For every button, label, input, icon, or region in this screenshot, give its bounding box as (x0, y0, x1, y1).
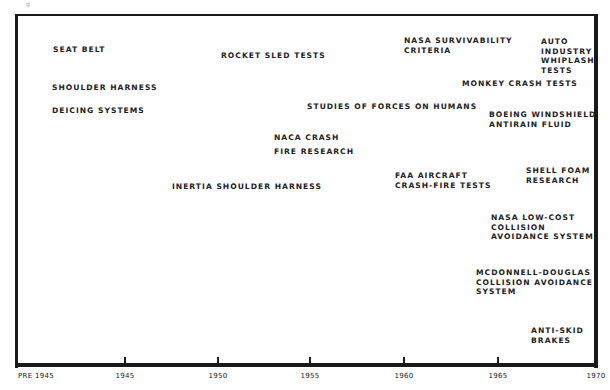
corner-mark: g (26, 0, 30, 7)
timeline-event-label: NACA CRASH (274, 133, 339, 143)
axis-tick-label: 1955 (300, 372, 319, 380)
axis-tick-label: 1950 (208, 372, 227, 380)
timeline-event-label: STUDIES OF FORCES ON HUMANS (307, 102, 477, 112)
timeline-event-label: FAA AIRCRAFT CRASH-FIRE TESTS (395, 171, 491, 190)
timeline-event-label: SHOULDER HARNESS (52, 83, 158, 93)
axis-tick-label: 1965 (488, 372, 507, 380)
axis-tick-label: 1970 (586, 372, 605, 380)
timeline-event-label: DEICING SYSTEMS (52, 106, 145, 116)
timeline-event-label: BOEING WINDSHIELD ANTIRAIN FLUID (489, 110, 596, 129)
axis-tick (403, 357, 405, 364)
timeline-event-label: MONKEY CRASH TESTS (462, 79, 578, 89)
time-axis (15, 363, 598, 367)
axis-tick-label: PRE 1945 (18, 372, 54, 380)
timeline-event-label: INERTIA SHOULDER HARNESS (172, 182, 322, 192)
timeline-event-label: NASA SURVIVABILITY CRITERIA (404, 36, 513, 55)
timeline-event-label: ANTI-SKID BRAKES (531, 326, 584, 345)
timeline-event-label: SEAT BELT (53, 45, 106, 55)
axis-tick (217, 357, 219, 364)
timeline-event-label: ROCKET SLED TESTS (221, 51, 326, 61)
timeline-event-label: SHELL FOAM RESEARCH (526, 166, 590, 185)
timeline-event-label: NASA LOW-COST COLLISION AVOIDANCE SYSTEM (491, 213, 594, 242)
axis-tick (497, 357, 499, 364)
axis-tick-label: 1945 (115, 372, 134, 380)
axis-tick (309, 357, 311, 364)
timeline-event-label: FIRE RESEARCH (274, 147, 354, 157)
frame-top-border (16, 14, 597, 16)
axis-tick (124, 357, 126, 364)
timeline-event-label: MCDONNELL-DOUGLAS COLLISION AVOIDANCE SY… (476, 268, 593, 297)
frame-left-border (15, 14, 18, 368)
axis-tick-label: 1960 (394, 372, 413, 380)
timeline-event-label: AUTO INDUSTRY WHIPLASH TESTS (541, 37, 595, 75)
